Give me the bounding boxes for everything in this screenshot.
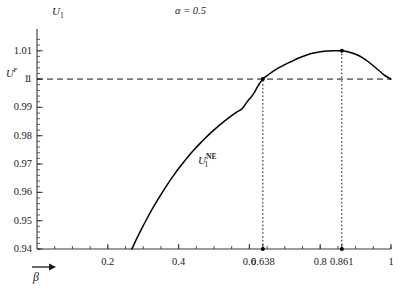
- y-tick-label: 0.97: [0, 159, 32, 170]
- x-tick-label: 0.4: [159, 257, 199, 268]
- y-tick-label: 0.94: [0, 244, 32, 255]
- marker-crossing-on-axis: [261, 247, 265, 251]
- x-tick-label: 0.861: [322, 257, 362, 268]
- chart-figure: α = 0.5 U1 UF UNE1 β 0.940.950.960.970.9…: [0, 0, 407, 293]
- curve-label-sub: 1: [204, 160, 208, 169]
- x-tick-label: 0.2: [88, 257, 128, 268]
- y-tick-label: 0.96: [0, 187, 32, 198]
- marker-peak-on-curve: [340, 49, 344, 53]
- marker-crossing-on-curve: [261, 77, 265, 81]
- y-axis-title-sub: 1: [60, 11, 64, 20]
- x-tick-label: 1: [371, 257, 407, 268]
- y-tick-label: 1.01: [0, 46, 32, 57]
- y-axis-title: U1: [52, 6, 64, 20]
- curve-label-u1ne: UNE1: [198, 153, 208, 168]
- chart-title-text: α = 0.5: [175, 5, 206, 16]
- y-axis-title-base: U: [52, 5, 60, 17]
- x-axis-title-text: β: [33, 270, 39, 284]
- y-tick-label: 0.98: [0, 131, 32, 142]
- marker-peak-on-axis: [340, 247, 344, 251]
- x-axis-title: β: [33, 271, 39, 283]
- y-tick-label: 0.95: [0, 216, 32, 227]
- plot-canvas: [0, 0, 407, 293]
- uf-value-label: 1: [24, 74, 29, 85]
- x-axis-arrow-icon: [31, 262, 57, 272]
- y-tick-label: 0.99: [0, 102, 32, 113]
- chart-title: α = 0.5: [175, 6, 206, 17]
- uf-label-sup: F: [14, 66, 18, 74]
- x-tick-label: 0.638: [243, 257, 283, 268]
